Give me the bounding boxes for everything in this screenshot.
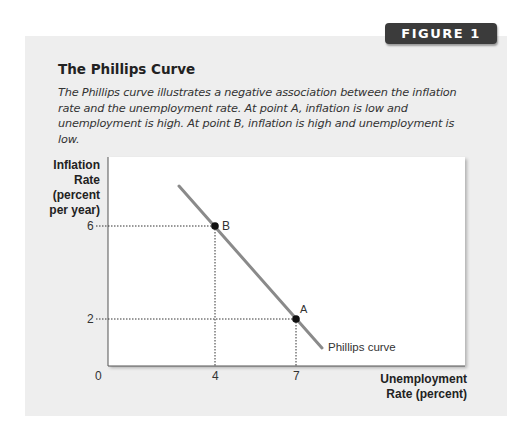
x-tick-label-7: 7 xyxy=(293,369,300,383)
y-axis-label: Inflation Rate (percent per year) xyxy=(49,158,100,218)
x-axis-label-line: Rate (percent) xyxy=(380,387,467,402)
y-axis-label-line: Rate xyxy=(49,173,100,188)
y-tick-label-2: 2 xyxy=(87,312,94,326)
y-tick-label-6: 6 xyxy=(87,219,94,233)
point-b xyxy=(211,222,219,230)
x-axis-label-line: Unemployment xyxy=(380,372,467,387)
phillips-curve-line xyxy=(179,186,322,348)
point-b-label: B xyxy=(222,219,230,233)
x-tick-label-4: 4 xyxy=(212,369,219,383)
y-axis-label-line: Inflation xyxy=(49,158,100,173)
point-a xyxy=(292,315,300,323)
origin-label: 0 xyxy=(95,369,102,383)
x-axis-label: Unemployment Rate (percent) xyxy=(380,372,467,402)
y-axis-label-line: per year) xyxy=(49,203,100,218)
y-axis-label-line: (percent xyxy=(49,188,100,203)
point-a-label: A xyxy=(300,303,307,315)
phillips-curve-label: Phillips curve xyxy=(328,341,396,353)
